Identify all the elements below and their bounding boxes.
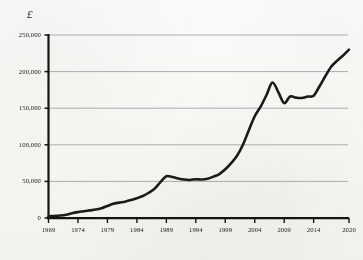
house-price-line (49, 50, 350, 217)
y-tick-label: 50,000 (1, 177, 41, 184)
y-tick-label: 250,000 (1, 31, 41, 38)
x-tick-label: 1984 (122, 226, 152, 233)
x-tick-label: 2004 (240, 226, 270, 233)
y-tick-label: 100,000 (1, 141, 41, 148)
x-tick-label: 2014 (299, 226, 329, 233)
house-price-chart: £ 050,000100,000150,000200,000250,000 19… (0, 0, 363, 260)
x-tick-label: 2020 (334, 226, 363, 233)
x-tick-label: 1999 (210, 226, 240, 233)
y-tick-label: 200,000 (1, 68, 41, 75)
x-tick-label: 1979 (92, 226, 122, 233)
x-tick-label: 1989 (151, 226, 181, 233)
y-tick-label: 150,000 (1, 104, 41, 111)
gridlines (49, 35, 349, 218)
x-tick-label: 1994 (181, 226, 211, 233)
x-tick-label: 1974 (63, 226, 93, 233)
x-tick-label: 2009 (269, 226, 299, 233)
y-tick-label: 0 (1, 214, 41, 221)
x-tick-label: 1969 (34, 226, 64, 233)
plot-area (0, 0, 363, 260)
